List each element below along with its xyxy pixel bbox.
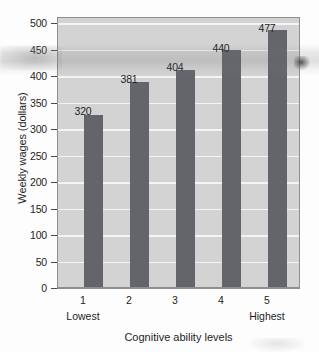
y-axis-tick-label: 500 xyxy=(7,17,47,29)
x-axis-baseline xyxy=(58,287,299,288)
x-axis-tick-label-5: 5 xyxy=(247,294,287,306)
y-axis-tick-label: 350 xyxy=(7,97,47,109)
bar-value-label-2: 381 xyxy=(109,73,149,85)
bar-category-3[interactable] xyxy=(176,70,195,288)
y-axis-tick-label: 50 xyxy=(7,256,47,268)
bar-value-label-5: 477 xyxy=(247,22,287,34)
bar-category-4[interactable] xyxy=(222,50,241,288)
y-axis-tick-label: 300 xyxy=(7,123,47,135)
bar-category-5[interactable] xyxy=(268,30,287,288)
x-axis-tick-label-4: 4 xyxy=(201,294,241,306)
bar-value-label-4: 440 xyxy=(201,42,241,54)
bar-value-label-3: 404 xyxy=(155,61,195,73)
x-axis-tick-label-1: 1 xyxy=(63,294,103,306)
y-axis-tick-label: 0 xyxy=(7,282,47,294)
bar-category-2[interactable] xyxy=(130,82,149,288)
y-axis-tick-label: 200 xyxy=(7,176,47,188)
bar-value-label-1: 320 xyxy=(63,105,103,117)
bar-category-1[interactable] xyxy=(84,115,103,288)
plot-area xyxy=(57,17,300,289)
x-axis-tick-label-2: 2 xyxy=(109,294,149,306)
y-axis-tick-label: 150 xyxy=(7,203,47,215)
y-axis-tick-label: 100 xyxy=(7,229,47,241)
x-axis-label-highest: Highest xyxy=(232,310,302,322)
y-axis-tick-label: 450 xyxy=(7,44,47,56)
x-axis-title: Cognitive ability levels xyxy=(57,331,300,343)
y-axis-tick-label: 400 xyxy=(7,70,47,82)
y-axis-tick-label: 250 xyxy=(7,150,47,162)
x-axis-label-lowest: Lowest xyxy=(48,310,118,322)
bar-chart-figure: Weekly wages (dollars) 500 450 400 350 3… xyxy=(0,0,319,352)
gridline xyxy=(58,50,299,52)
x-axis-tick-label-3: 3 xyxy=(155,294,195,306)
